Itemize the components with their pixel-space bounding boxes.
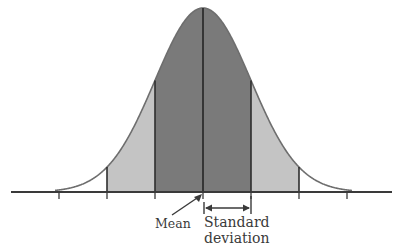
mean-arrow bbox=[172, 194, 202, 215]
normal-distribution-diagram: Mean Standard deviation bbox=[0, 0, 398, 249]
axis-ticks bbox=[59, 192, 347, 199]
std-dev-label-line1: Standard bbox=[204, 214, 270, 230]
std-dev-label-line2: deviation bbox=[204, 230, 270, 246]
std-dev-dimension bbox=[204, 196, 251, 214]
mean-label: Mean bbox=[155, 216, 191, 231]
